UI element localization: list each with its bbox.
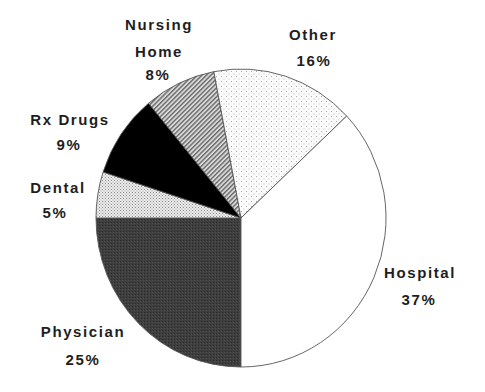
label-other: Other	[289, 26, 337, 43]
label-hospital: Hospital	[384, 264, 456, 281]
value-other: 16%	[297, 52, 332, 69]
label-nursing-home-line2: Home	[135, 43, 183, 60]
label-nursing-home: Nursing	[125, 16, 193, 33]
value-rx-drugs: 9%	[57, 136, 82, 153]
value-physician: 25%	[66, 351, 101, 368]
value-nursing-home: 8%	[146, 66, 171, 83]
label-dental: Dental	[30, 179, 85, 196]
value-hospital: 37%	[402, 291, 437, 308]
pie-chart: Physician25%Dental5%Rx Drugs9%NursingHom…	[0, 0, 485, 392]
slice-physician	[96, 218, 241, 367]
label-physician: Physician	[41, 323, 125, 340]
label-rx-drugs: Rx Drugs	[30, 111, 109, 128]
pie-slices	[96, 69, 386, 367]
value-dental: 5%	[43, 204, 68, 221]
